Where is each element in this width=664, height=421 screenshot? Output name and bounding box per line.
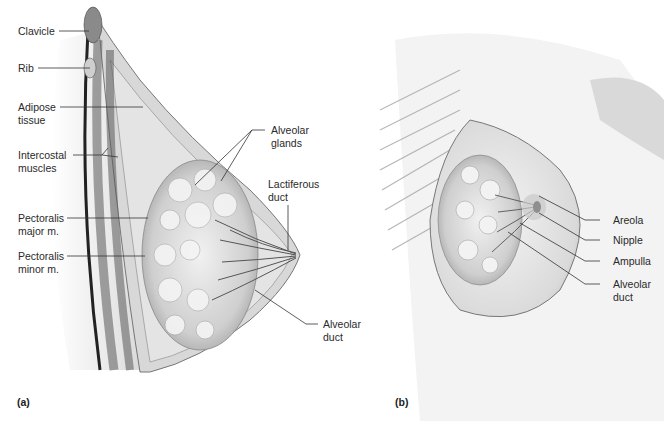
panel-label-a: (a): [17, 396, 30, 408]
label-rib: Rib: [18, 62, 34, 75]
label-alveolar-glands: Alveolar glands: [271, 124, 309, 150]
label-pectoralis-minor: Pectoralis minor m.: [18, 250, 64, 276]
label-ampulla: Ampulla: [613, 255, 651, 268]
label-alveolar-duct-a: Alveolar duct: [323, 318, 361, 344]
label-areola: Areola: [613, 214, 643, 227]
label-alveolar-duct-b: Alveolar duct: [613, 278, 651, 304]
panel-label-b: (b): [395, 396, 408, 408]
figure: Clavicle Rib Adipose tissue Intercostal …: [0, 0, 664, 421]
label-intercostal-muscles: Intercostal muscles: [18, 149, 66, 175]
label-pectoralis-major: Pectoralis major m.: [18, 212, 64, 238]
label-clavicle: Clavicle: [18, 25, 55, 38]
illustration: [0, 0, 664, 421]
panel-a-drawing: [52, 7, 300, 372]
label-lactiferous-duct: Lactiferous duct: [268, 178, 319, 204]
label-nipple: Nipple: [613, 234, 643, 247]
label-adipose-tissue: Adipose tissue: [18, 101, 56, 127]
panel-b-drawing: [380, 33, 664, 421]
